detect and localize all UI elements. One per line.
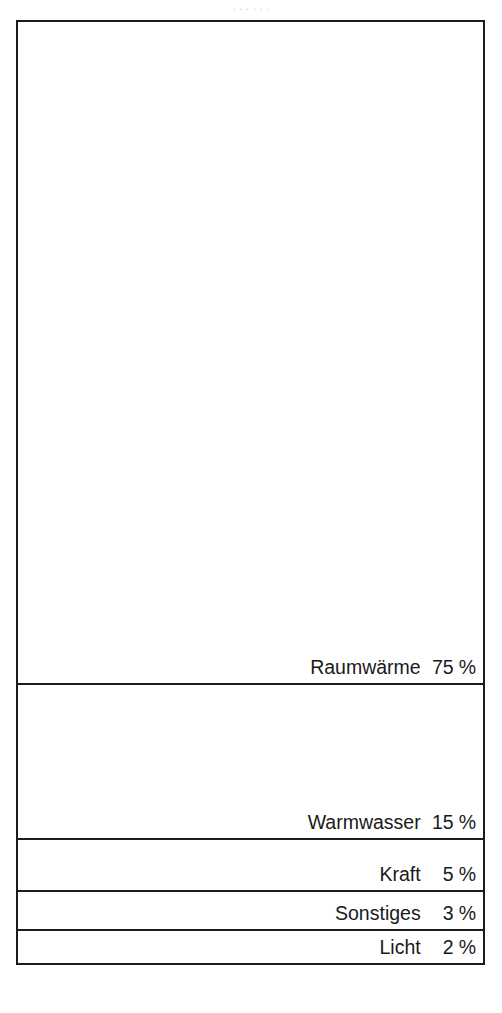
bar-segment-sonstiges[interactable]: Sonstiges 3 % xyxy=(18,892,483,931)
stacked-bar-chart: Raumwärme 75 % Warmwasser 15 % Kraft 5 %… xyxy=(16,20,485,965)
segment-unit-licht: % xyxy=(459,938,476,958)
segment-name-raumwaerme: Raumwärme xyxy=(310,658,421,678)
bar-segment-warmwasser[interactable]: Warmwasser 15 % xyxy=(18,685,483,840)
segment-unit-warmwasser: % xyxy=(459,813,476,833)
segment-unit-kraft: % xyxy=(459,865,476,885)
segment-unit-raumwaerme: % xyxy=(459,658,476,678)
segment-value-kraft: 5 xyxy=(428,865,454,885)
segment-value-licht: 2 xyxy=(428,938,454,958)
segment-name-kraft: Kraft xyxy=(379,865,420,885)
segment-value-raumwaerme: 75 xyxy=(428,658,454,678)
segment-label-sonstiges: Sonstiges 3 % xyxy=(335,904,483,930)
segment-label-raumwaerme: Raumwärme 75 % xyxy=(310,658,483,684)
bar-segment-raumwaerme[interactable]: Raumwärme 75 % xyxy=(18,22,483,685)
segment-label-kraft: Kraft 5 % xyxy=(379,865,483,891)
segment-unit-sonstiges: % xyxy=(459,904,476,924)
segment-name-sonstiges: Sonstiges xyxy=(335,904,421,924)
segment-label-licht: Licht 2 % xyxy=(379,938,483,964)
clipped-caption-remnant: . . . . . . xyxy=(0,0,502,13)
segment-name-warmwasser: Warmwasser xyxy=(308,813,421,833)
bar-segment-kraft[interactable]: Kraft 5 % xyxy=(18,840,483,892)
segment-name-licht: Licht xyxy=(379,938,420,958)
segment-label-warmwasser: Warmwasser 15 % xyxy=(308,813,483,839)
segment-value-sonstiges: 3 xyxy=(428,904,454,924)
segment-value-warmwasser: 15 xyxy=(428,813,454,833)
bar-segment-licht[interactable]: Licht 2 % xyxy=(18,931,483,963)
